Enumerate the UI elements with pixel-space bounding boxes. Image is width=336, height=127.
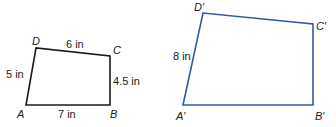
scaled-quadrilateral: D′ C′ B′ A′ 8 in xyxy=(173,1,327,122)
vertex-label-c-prime: C′ xyxy=(316,20,327,32)
vertex-label-c: C xyxy=(113,44,121,56)
side-label-dc: 6 in xyxy=(66,38,84,50)
quadrilateral-abcd-outline xyxy=(26,48,110,105)
side-label-ab: 7 in xyxy=(58,108,76,120)
vertex-label-d-prime: D′ xyxy=(194,1,205,13)
side-label-cb: 4.5 in xyxy=(113,75,140,87)
original-quadrilateral: D C B A 6 in 5 in 4.5 in 7 in xyxy=(6,35,140,120)
vertex-label-b: B xyxy=(110,108,117,120)
quadrilateral-abcd-prime-outline xyxy=(183,13,313,105)
vertex-label-a-prime: A′ xyxy=(175,110,186,122)
vertex-label-d: D xyxy=(32,35,40,47)
vertex-label-b-prime: B′ xyxy=(315,110,325,122)
vertex-label-a: A xyxy=(16,108,24,120)
side-label-da: 5 in xyxy=(6,68,24,80)
diagram-canvas: D C B A 6 in 5 in 4.5 in 7 in D′ C′ B′ A… xyxy=(0,0,336,127)
side-label-d-prime-a-prime: 8 in xyxy=(173,50,191,62)
